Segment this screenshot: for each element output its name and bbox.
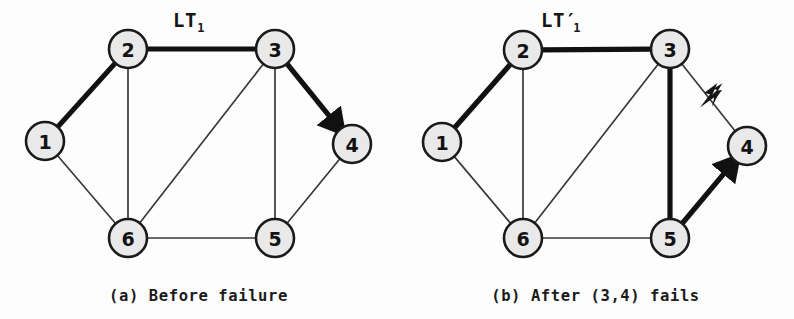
- edges-group-a: [56, 49, 341, 238]
- edge-6-3: [534, 63, 660, 224]
- node-label-2: 2: [121, 39, 134, 61]
- node-5[interactable]: 5: [256, 219, 294, 257]
- node-label-6: 6: [516, 228, 529, 250]
- node-1[interactable]: 1: [423, 123, 461, 161]
- node-label-3: 3: [663, 39, 676, 61]
- caption-a: (a) Before failure: [0, 287, 397, 305]
- node-6[interactable]: 6: [504, 219, 542, 257]
- node-label-3: 3: [268, 39, 281, 61]
- graph-canvas-b: 123456 LT′ 1: [397, 0, 794, 319]
- node-4[interactable]: 4: [333, 125, 371, 163]
- figure-root: 123456 LT 1 (a) Before failure 123456 LT…: [0, 0, 794, 319]
- node-1[interactable]: 1: [26, 122, 64, 160]
- node-4[interactable]: 4: [728, 127, 766, 165]
- edge-5-4: [286, 158, 341, 225]
- tree-label-subscript-a: 1: [197, 21, 204, 35]
- node-label-1: 1: [38, 131, 51, 153]
- edge-1-2: [56, 61, 118, 129]
- caption-b: (b) After (3,4) fails: [397, 287, 794, 305]
- panel-before-failure: 123456 LT 1 (a) Before failure: [0, 0, 397, 319]
- edge-3-4: [285, 61, 336, 124]
- node-2[interactable]: 2: [109, 30, 147, 68]
- node-6[interactable]: 6: [109, 219, 147, 257]
- failure-group-b: [694, 83, 726, 110]
- edges-group-b: [453, 49, 737, 238]
- node-2[interactable]: 2: [504, 31, 542, 69]
- node-5[interactable]: 5: [651, 219, 689, 257]
- node-label-4: 4: [345, 134, 358, 156]
- node-label-2: 2: [516, 40, 529, 62]
- edge-2-3: [539, 49, 654, 50]
- tree-label-subscript-b: 1: [573, 21, 580, 35]
- node-label-1: 1: [435, 132, 448, 154]
- edge-1-6: [453, 155, 511, 224]
- nodes-group-b: 123456: [423, 30, 766, 257]
- tree-label-a: LT: [173, 9, 197, 31]
- edge-1-6: [56, 154, 116, 224]
- node-label-5: 5: [663, 228, 676, 250]
- nodes-group-a: 123456: [26, 30, 371, 257]
- edge-6-3: [139, 63, 265, 224]
- node-3[interactable]: 3: [651, 30, 689, 68]
- graph-canvas-a: 123456 LT 1: [0, 0, 397, 319]
- node-label-4: 4: [740, 136, 753, 158]
- panel-after-failure: 123456 LT′ 1 (b) After (3,4) fails: [397, 0, 794, 319]
- edge-1-2: [453, 62, 513, 130]
- node-3[interactable]: 3: [256, 30, 294, 68]
- tree-label-b: LT′: [541, 9, 577, 31]
- edge-5-4: [680, 166, 730, 226]
- node-label-6: 6: [121, 228, 134, 250]
- node-label-5: 5: [268, 228, 281, 250]
